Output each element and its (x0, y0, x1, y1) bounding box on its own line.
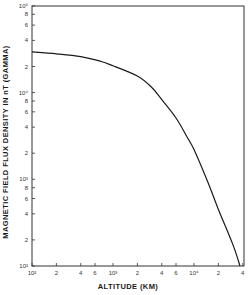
x-tick-label: 2 (55, 270, 59, 276)
x-axis-ticks: 10²24610³24610⁴24 (28, 263, 245, 276)
x-tick-label: 2 (217, 270, 221, 276)
y-tick-label: 8 (25, 98, 29, 104)
x-tick-label: 10³ (109, 270, 118, 276)
x-tick-label: 6 (174, 270, 178, 276)
x-tick-label: 6 (93, 270, 97, 276)
y-tick-label: 6 (25, 22, 29, 28)
y-tick-label: 4 (25, 211, 29, 217)
x-tick-label: 4 (160, 270, 164, 276)
y-tick-label: 6 (25, 109, 29, 115)
plot-frame (32, 6, 244, 266)
x-tick-label: 4 (79, 270, 83, 276)
y-tick-label: 2 (25, 237, 29, 243)
y-tick-label: 4 (25, 37, 29, 43)
x-tick-label: 10² (28, 270, 37, 276)
y-tick-label: 10² (19, 263, 28, 269)
y-tick-label: 4 (25, 124, 29, 130)
y-tick-label: 10³ (19, 176, 28, 182)
y-tick-label: 2 (25, 64, 29, 70)
x-tick-label: 4 (241, 270, 245, 276)
y-tick-label: 6 (25, 196, 29, 202)
y-axis-title: MAGNETIC FIELD FLUX DENSITY IN nT (GAMMA… (1, 45, 10, 238)
x-tick-label: 10⁴ (189, 270, 199, 276)
y-tick-label: 2 (25, 150, 29, 156)
x-tick-label: 2 (136, 270, 140, 276)
y-tick-label: 10⁵ (19, 3, 29, 9)
flux-density-chart: 10²24610³24610⁴24 10²246810³246810⁴24681… (0, 0, 248, 295)
flux-density-curve (32, 52, 240, 266)
y-axis-ticks: 10²246810³246810⁴246810⁵ (19, 3, 35, 269)
y-tick-label: 10⁴ (19, 90, 29, 96)
x-axis-title: ALTITUDE (KM) (98, 282, 159, 291)
y-tick-label: 8 (25, 185, 29, 191)
y-tick-label: 8 (25, 11, 29, 17)
